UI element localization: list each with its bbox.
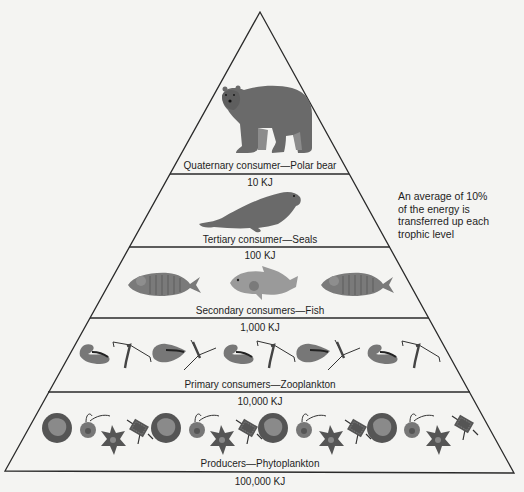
copepod-icon	[184, 340, 216, 370]
diatom-round-icon	[151, 413, 181, 443]
chain-diatom-icon	[345, 419, 371, 444]
note-line: trophic level	[398, 228, 508, 241]
zooplankton-row	[80, 340, 440, 370]
fish-icon	[128, 273, 201, 296]
copepod-icon	[113, 342, 151, 368]
level-label-primary: Primary consumers—Zooplankton	[184, 379, 335, 390]
fish-icon	[321, 273, 394, 296]
star-diatom-icon	[210, 425, 235, 455]
copepod-icon	[257, 341, 295, 368]
fish-icon	[230, 266, 298, 300]
note-line: of the energy is	[398, 203, 508, 216]
pyramid-diagram	[0, 0, 524, 492]
energy-label-primary: 10,000 KJ	[237, 396, 282, 407]
diatom-round-icon	[42, 413, 72, 443]
phytoplankton-row	[42, 413, 478, 455]
note-line: transferred up each	[398, 215, 508, 228]
star-diatom-icon	[426, 425, 451, 455]
chain-diatom-icon	[127, 419, 153, 444]
seal-icon	[199, 192, 301, 232]
level-label-producers: Producers—Phytoplankton	[201, 458, 320, 469]
level-label-tertiary: Tertiary consumer—Seals	[203, 234, 317, 245]
polar-bear-icon	[222, 86, 312, 154]
krill-icon	[368, 344, 398, 364]
dinoflagellate-icon	[296, 414, 326, 438]
energy-transfer-note: An average of 10% of the energy is trans…	[398, 190, 508, 240]
chain-diatom-icon	[236, 419, 262, 444]
star-diatom-icon	[101, 425, 126, 455]
energy-label-tertiary: 100 KJ	[244, 250, 275, 261]
copepod-icon	[328, 340, 360, 370]
krill-icon	[224, 344, 254, 364]
krill-icon	[152, 344, 186, 362]
energy-label-quaternary: 10 KJ	[247, 177, 273, 188]
level-label-quaternary: Quaternary consumer—Polar bear	[184, 160, 337, 171]
diatom-round-icon	[258, 413, 288, 443]
energy-label-secondary: 1,000 KJ	[240, 322, 279, 333]
krill-icon	[80, 344, 110, 364]
star-diatom-icon	[319, 425, 344, 455]
diatom-round-icon	[367, 413, 397, 443]
krill-icon	[296, 344, 330, 362]
note-line: An average of 10%	[398, 190, 508, 203]
level-label-secondary: Secondary consumers—Fish	[196, 305, 324, 316]
energy-label-producers: 100,000 KJ	[235, 476, 286, 487]
chain-diatom-icon	[452, 415, 478, 440]
copepod-icon	[402, 341, 440, 368]
